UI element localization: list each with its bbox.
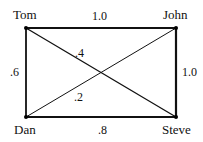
- weight-dan-john: .2: [74, 90, 83, 104]
- weight-tom-dan: .6: [10, 65, 19, 79]
- node-john: [174, 26, 178, 30]
- node-label-dan: Dan: [14, 122, 36, 137]
- weight-tom-steve: .4: [75, 46, 84, 60]
- node-tom: [24, 26, 28, 30]
- node-dan: [24, 115, 28, 119]
- node-label-tom: Tom: [13, 7, 37, 22]
- node-steve: [174, 115, 178, 119]
- weight-dan-steve: .8: [98, 123, 107, 137]
- node-label-steve: Steve: [162, 122, 191, 137]
- node-label-john: John: [163, 7, 188, 22]
- graph-diagram: Tom John Dan Steve 1.0 1.0 .6 .8 .4 .2: [0, 0, 203, 142]
- weight-tom-john: 1.0: [92, 9, 107, 23]
- weight-john-steve: 1.0: [182, 65, 197, 79]
